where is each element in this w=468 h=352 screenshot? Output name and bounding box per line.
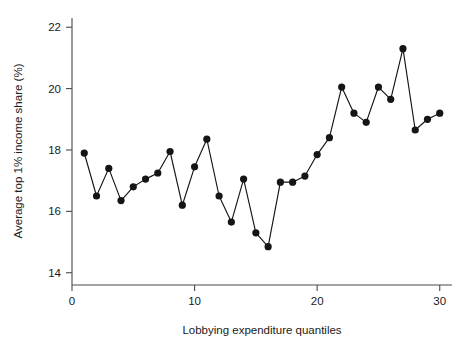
data-point-marker xyxy=(252,229,259,236)
data-point-marker xyxy=(314,151,321,158)
x-tick-label: 30 xyxy=(433,295,446,307)
data-point-marker xyxy=(265,243,272,250)
series-polyline xyxy=(84,49,439,247)
data-point-marker xyxy=(216,192,223,199)
data-point-marker xyxy=(363,119,370,126)
data-point-marker xyxy=(289,179,296,186)
data-point-marker xyxy=(240,176,247,183)
data-point-marker xyxy=(117,197,124,204)
data-point-marker xyxy=(130,183,137,190)
data-point-marker xyxy=(424,116,431,123)
data-point-marker xyxy=(105,165,112,172)
data-series xyxy=(81,45,444,250)
x-tick-label: 0 xyxy=(69,295,75,307)
data-point-marker xyxy=(436,110,443,117)
data-point-marker xyxy=(338,83,345,90)
y-tick-label: 16 xyxy=(48,205,61,217)
data-point-marker xyxy=(166,148,173,155)
x-axis: 0102030 xyxy=(69,285,446,307)
data-point-marker xyxy=(228,218,235,225)
y-tick-label: 14 xyxy=(48,267,61,279)
data-point-marker xyxy=(277,179,284,186)
y-tick-label: 18 xyxy=(48,144,61,156)
x-tick-label: 20 xyxy=(311,295,324,307)
y-tick-label: 22 xyxy=(48,21,61,33)
data-point-marker xyxy=(179,202,186,209)
data-point-marker xyxy=(93,192,100,199)
data-point-marker xyxy=(191,163,198,170)
data-point-marker xyxy=(387,96,394,103)
chart-canvas: 1416182022 0102030 Lobbying expenditure … xyxy=(0,0,468,352)
data-point-marker xyxy=(412,126,419,133)
y-axis-title: Average top 1% income share (%) xyxy=(12,63,24,238)
y-tick-label: 20 xyxy=(48,83,61,95)
data-point-marker xyxy=(375,83,382,90)
x-axis-title: Lobbying expenditure quantiles xyxy=(182,324,341,336)
data-point-marker xyxy=(81,149,88,156)
y-axis: 1416182022 xyxy=(48,21,72,279)
data-point-marker xyxy=(203,136,210,143)
data-point-marker xyxy=(399,45,406,52)
data-point-marker xyxy=(326,134,333,141)
axis-spines xyxy=(72,18,452,285)
data-point-marker xyxy=(142,176,149,183)
chart-figure: 1416182022 0102030 Lobbying expenditure … xyxy=(0,0,468,352)
data-point-marker xyxy=(301,172,308,179)
x-tick-label: 10 xyxy=(188,295,201,307)
data-point-marker xyxy=(350,110,357,117)
data-point-marker xyxy=(154,169,161,176)
